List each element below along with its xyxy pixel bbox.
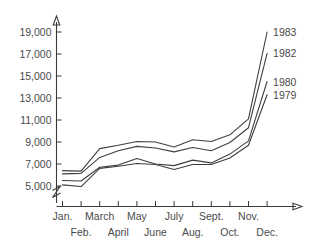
x-tick-marks (63, 201, 268, 207)
x-axis: Jan.MarchMayJulySept.Nov. Feb.AprilJuneA… (53, 201, 302, 238)
series-line-1980 (63, 82, 268, 182)
series-label-1983: 1983 (273, 26, 297, 38)
series-label-1982: 1982 (273, 47, 297, 59)
x-tick-label-lower: Dec. (256, 226, 278, 238)
x-tick-label-lower: April (108, 226, 129, 238)
x-tick-label-upper: Jan. (53, 210, 73, 222)
x-tick-label-lower: Aug. (182, 226, 204, 238)
y-tick-labels: 5,0007,0009,00011,00013,00015,00017,0001… (19, 26, 51, 192)
series-labels-group: 1983198219801979 (273, 26, 297, 101)
x-tick-label-upper: July (165, 210, 184, 222)
y-axis: 5,0007,0009,00011,00013,00015,00017,0001… (19, 16, 61, 203)
y-tick-label: 13,000 (19, 92, 51, 104)
y-tick-label: 19,000 (19, 26, 51, 38)
x-tick-label-upper: Sept. (199, 210, 224, 222)
series-group (63, 32, 268, 187)
axis-break-icon (53, 186, 61, 198)
x-tick-label-upper: May (127, 210, 148, 222)
x-tick-label-upper: Nov. (238, 210, 259, 222)
y-tick-label: 15,000 (19, 70, 51, 82)
x-tick-labels-upper: Jan.MarchMayJulySept.Nov. (53, 210, 259, 222)
y-tick-label: 9,000 (25, 136, 51, 148)
x-tick-label-upper: March (85, 210, 114, 222)
y-tick-label: 11,000 (20, 114, 51, 126)
x-tick-labels-lower: Feb.AprilJuneAug.Oct.Dec. (71, 226, 278, 238)
y-tick-marks (57, 32, 62, 186)
y-tick-label: 17,000 (19, 48, 51, 60)
x-tick-label-lower: Feb. (71, 226, 92, 238)
x-tick-label-lower: Oct. (220, 226, 239, 238)
x-tick-label-lower: June (144, 226, 167, 238)
line-chart: 5,0007,0009,00011,00013,00015,00017,0001… (0, 0, 316, 249)
y-tick-label: 5,000 (25, 180, 51, 192)
series-label-1979: 1979 (273, 89, 297, 101)
chart-figure: 5,0007,0009,00011,00013,00015,00017,0001… (0, 0, 316, 249)
y-tick-label: 7,000 (25, 158, 51, 170)
series-label-1980: 1980 (273, 76, 297, 88)
